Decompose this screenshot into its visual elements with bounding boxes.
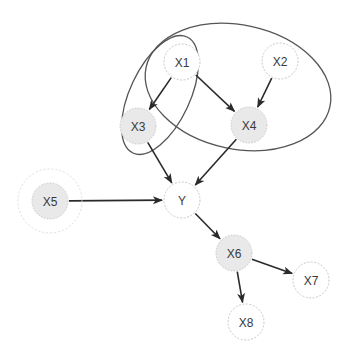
node-x4: X4 [231, 107, 267, 143]
node-label: Y [178, 194, 186, 208]
node-x1: X1 [164, 44, 200, 80]
node-x7: X7 [293, 262, 329, 298]
node-label: X6 [227, 247, 242, 261]
edge-x6-to-x8 [237, 272, 242, 303]
node-label: X1 [175, 56, 190, 70]
edge-x6-to-x7 [252, 259, 292, 273]
node-x3: X3 [120, 108, 156, 144]
edge-x3-to-y [148, 142, 172, 182]
node-label: X3 [131, 120, 146, 134]
node-label: X5 [43, 195, 58, 209]
node-label: X7 [304, 274, 319, 288]
node-label: X4 [242, 119, 257, 133]
nodes: X1X2X3X4X5YX6X7X8 [18, 43, 329, 340]
bayesian-network-diagram: X1X2X3X4X5YX6X7X8 [0, 0, 353, 360]
node-x8: X8 [228, 304, 264, 340]
edge-x1-to-x4 [196, 75, 235, 111]
edge-x2-to-x4 [258, 78, 272, 107]
node-y: Y [164, 182, 200, 218]
node-label: X2 [273, 55, 288, 69]
node-label: X8 [239, 316, 254, 330]
node-x6: X6 [216, 235, 252, 271]
edge-x1-to-x3 [149, 78, 171, 110]
edge-x5-to-y [69, 200, 162, 201]
node-x2: X2 [262, 43, 298, 79]
edge-y-to-x6 [195, 214, 220, 239]
